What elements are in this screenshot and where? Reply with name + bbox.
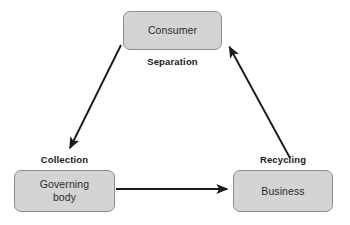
arrow-business-to-consumer <box>230 47 291 158</box>
diagram-canvas: Consumer Governing body Business Separat… <box>0 0 350 225</box>
node-governing-body[interactable]: Governing body <box>14 170 115 212</box>
node-consumer-label: Consumer <box>148 24 197 37</box>
arrow-consumer-to-governing-body <box>70 45 121 148</box>
node-governing-body-label: Governing body <box>40 178 89 204</box>
edge-label-recycling: Recycling <box>233 154 333 165</box>
node-business-label: Business <box>261 185 304 198</box>
edge-label-separation: Separation <box>123 56 222 67</box>
node-consumer[interactable]: Consumer <box>123 11 222 50</box>
node-business[interactable]: Business <box>233 170 333 212</box>
edge-label-collection: Collection <box>14 154 115 165</box>
